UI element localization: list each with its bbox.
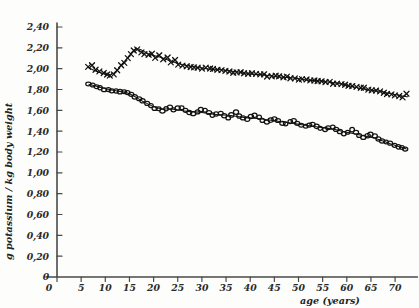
figure-container: g potassium / kg body weight 00,200,400,… — [0, 0, 419, 308]
series-upper-x-markers — [86, 47, 409, 100]
y-tick-label: 1,00 — [27, 167, 50, 179]
y-tick-label: 2,20 — [26, 42, 50, 54]
x-tick-label: 35 — [220, 282, 233, 293]
x-tick-label: 55 — [316, 282, 329, 293]
axes-layer — [46, 23, 417, 282]
y-tick-label: 0,60 — [27, 209, 50, 221]
x-axis-title: age (years) — [300, 295, 360, 306]
x-tick-label: 45 — [268, 282, 281, 293]
data-point-x — [115, 68, 120, 73]
data-point-x — [404, 91, 409, 96]
series-lower-o-markers — [86, 82, 408, 151]
x-tick-label: 70 — [389, 282, 402, 293]
y-tick-label: 1,80 — [27, 84, 50, 96]
x-tick-label: 20 — [146, 282, 160, 293]
x-tick-label: 0 — [46, 282, 53, 293]
y-tick-label: 1,40 — [27, 126, 50, 138]
x-tick-label: 65 — [364, 282, 377, 293]
x-axis-title-group: age (years) — [300, 295, 360, 306]
y-tick-label: 0,80 — [27, 188, 50, 200]
y-tick-label: 1,60 — [27, 105, 50, 117]
series-layer — [86, 47, 409, 151]
scatter-plot-canvas: 00,200,400,600,801,001,201,401,601,802,0… — [0, 0, 419, 308]
y-tick-label: 0,20 — [27, 251, 50, 263]
x-tick-label: 15 — [123, 282, 136, 293]
x-tick-label: 10 — [99, 282, 112, 293]
x-tick-label: 5 — [78, 282, 84, 293]
x-tick-label: 30 — [195, 282, 208, 293]
y-tick-label: 2,00 — [26, 63, 50, 75]
x-tick-label: 40 — [244, 282, 257, 293]
x-tick-label: 25 — [170, 282, 184, 293]
axis-tick-labels: 00,200,400,600,801,001,201,401,601,802,0… — [26, 21, 402, 293]
x-tick-label: 60 — [340, 282, 353, 293]
x-tick-label: 50 — [292, 282, 305, 293]
y-tick-label: 0 — [43, 271, 50, 282]
y-tick-label: 1,20 — [27, 146, 50, 158]
y-tick-label: 2,40 — [26, 21, 50, 33]
y-tick-label: 0,40 — [27, 230, 50, 242]
